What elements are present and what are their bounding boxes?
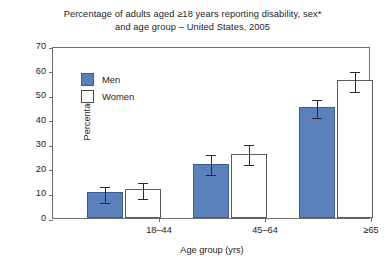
y-tick-label: 20 — [36, 164, 46, 174]
x-tick-mark — [159, 218, 160, 222]
y-tick-mark — [49, 72, 53, 73]
chart-title-line-1: Percentage of adults aged ≥18 years repo… — [0, 8, 385, 21]
plot-area: Percentage 0 10 20 30 40 50 60 — [52, 47, 370, 219]
errorbar-cap-top — [244, 145, 254, 146]
legend-swatch-women — [81, 90, 94, 103]
errorbar-cap-top — [138, 183, 148, 184]
bar-women-65plus[interactable] — [337, 80, 373, 218]
y-tick-label: 30 — [36, 139, 46, 149]
x-tick-label: ≥65 — [363, 225, 378, 235]
y-tick-mark — [49, 220, 53, 221]
legend-item-women: Women — [81, 88, 134, 105]
chart-title-line-2: and age group – United States, 2005 — [0, 21, 385, 34]
errorbar-cap-bottom — [350, 92, 360, 93]
errorbar-cap-top — [312, 100, 322, 101]
y-tick-label: 50 — [36, 90, 46, 100]
errorbar-stem — [105, 187, 106, 204]
y-tick-mark — [49, 170, 53, 171]
chart-title: Percentage of adults aged ≥18 years repo… — [0, 8, 385, 33]
y-tick-label: 60 — [36, 66, 46, 76]
errorbar-stem — [211, 155, 212, 176]
errorbar-stem — [355, 72, 356, 94]
x-axis-label: Age group (yrs) — [53, 245, 371, 255]
y-tick-label: 70 — [36, 41, 46, 51]
x-tick-label: 18–44 — [146, 225, 172, 235]
errorbar-stem — [317, 100, 318, 120]
y-tick-mark — [49, 195, 53, 196]
errorbar-stem — [143, 183, 144, 200]
x-tick-mark — [371, 218, 372, 222]
x-tick-mark — [265, 218, 266, 222]
legend-label-men: Men — [102, 74, 120, 85]
errorbar-cap-top — [100, 187, 110, 188]
y-tick-mark — [49, 146, 53, 147]
errorbar-stem — [249, 145, 250, 166]
y-tick-label: 0 — [41, 213, 46, 223]
y-tick-label: 10 — [36, 188, 46, 198]
errorbar-cap-bottom — [100, 203, 110, 204]
chart-legend: Men Women — [81, 71, 134, 105]
bar-men-65plus[interactable] — [299, 107, 335, 218]
errorbar-cap-bottom — [244, 165, 254, 166]
y-tick-label: 40 — [36, 115, 46, 125]
errorbar-cap-bottom — [138, 199, 148, 200]
x-tick-label: 45–64 — [252, 225, 278, 235]
legend-label-women: Women — [102, 91, 134, 102]
y-tick-mark — [49, 97, 53, 98]
legend-swatch-men — [81, 73, 94, 86]
errorbar-cap-bottom — [206, 175, 216, 176]
errorbar-cap-bottom — [312, 118, 322, 119]
legend-item-men: Men — [81, 71, 134, 88]
y-tick-mark — [49, 48, 53, 49]
chart-figure: Percentage of adults aged ≥18 years repo… — [0, 0, 385, 274]
y-tick-mark — [49, 121, 53, 122]
errorbar-cap-top — [350, 72, 360, 73]
errorbar-cap-top — [206, 155, 216, 156]
